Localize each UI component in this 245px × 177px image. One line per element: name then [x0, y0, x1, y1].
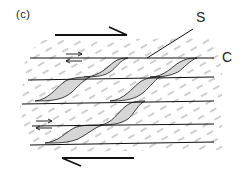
bottom-shear-arrow-icon [62, 158, 134, 166]
s-plane-label: S [196, 10, 205, 24]
top-shear-arrow-icon [55, 27, 127, 35]
c-plane-label: C [222, 50, 232, 64]
sc-fabric-svg [0, 0, 245, 177]
sc-fabric-diagram: (c) S C [0, 0, 245, 177]
panel-label: (c) [16, 9, 30, 20]
